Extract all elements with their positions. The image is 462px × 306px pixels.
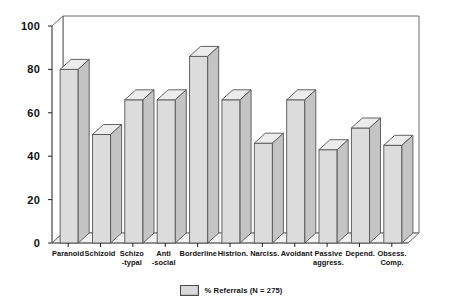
y-tick-label: 60 xyxy=(27,107,40,119)
bar-side xyxy=(272,133,283,243)
y-axis: 020406080100 xyxy=(14,0,40,306)
x-tick-label-line: -typal xyxy=(116,258,148,267)
x-tick-label: Depend. xyxy=(344,249,376,289)
bar-front xyxy=(60,69,78,243)
bar-group xyxy=(157,90,186,243)
x-tick-label: Anti-social xyxy=(148,249,180,289)
x-tick-label: Histrion. xyxy=(217,249,249,289)
bar-group xyxy=(287,90,316,243)
x-tick-label-line: Depend. xyxy=(344,249,376,258)
x-tick-label-line: Schizo xyxy=(116,249,148,258)
bar-side xyxy=(402,135,413,243)
bar-front xyxy=(287,100,305,243)
x-tick-label: Paranoid xyxy=(52,249,84,289)
bar-front xyxy=(93,135,111,244)
bar-front xyxy=(222,100,240,243)
bar-group xyxy=(222,90,251,243)
legend-label-referrals: % Referrals (N = 275) xyxy=(205,286,283,295)
bar-group xyxy=(254,133,283,243)
y-tick-label: 0 xyxy=(34,237,40,249)
bar-side xyxy=(305,90,316,243)
y-tick-label: 100 xyxy=(21,20,40,32)
bar-side xyxy=(175,90,186,243)
bar-side xyxy=(337,140,348,243)
bar-front xyxy=(254,143,272,243)
bar-front xyxy=(384,145,402,243)
x-tick-label: Narciss. xyxy=(249,249,281,289)
x-tick-label-line: Comp. xyxy=(376,258,408,267)
bar-group xyxy=(190,46,219,243)
bar-front xyxy=(351,128,369,243)
bar-side xyxy=(78,59,89,243)
x-tick-label-line: aggress. xyxy=(312,258,344,267)
x-axis: ParanoidSchizoidSchizo-typalAnti-socialB… xyxy=(52,249,408,289)
bar-side xyxy=(240,90,251,243)
x-tick-label: Avoidant xyxy=(281,249,313,289)
x-tick-label: Passiveaggress. xyxy=(312,249,344,289)
bar-group xyxy=(319,140,348,243)
bar-side xyxy=(208,46,219,243)
y-tick-label: 40 xyxy=(27,150,40,162)
x-tick-label-line: Anti xyxy=(148,249,180,258)
x-tick-label-line: Schizoid xyxy=(84,249,116,258)
bar-front xyxy=(125,100,143,243)
bar-side xyxy=(370,118,381,243)
bar-group xyxy=(93,125,122,244)
x-tick-label-line: Avoidant xyxy=(281,249,313,258)
bar-side xyxy=(143,90,154,243)
x-tick-label: Schizoid xyxy=(84,249,116,289)
bar-group xyxy=(384,135,413,243)
x-tick-label-line: -social xyxy=(148,258,180,267)
y-tick-label: 80 xyxy=(27,63,40,75)
x-tick-label: Borderline xyxy=(180,249,217,289)
x-tick-label: Schizo-typal xyxy=(116,249,148,289)
legend: % Referrals (N = 275) xyxy=(0,285,462,296)
y-tick-label: 20 xyxy=(27,194,40,206)
x-tick-label-line: Paranoid xyxy=(52,249,84,258)
x-tick-label-line: Obsess. xyxy=(376,249,408,258)
bar-side xyxy=(111,125,122,244)
x-tick-label-line: Narciss. xyxy=(249,249,281,258)
bar-group xyxy=(351,118,380,243)
x-tick-label-line: Borderline xyxy=(180,249,217,258)
legend-swatch-referrals xyxy=(180,285,199,296)
x-tick-label-line: Histrion. xyxy=(217,249,249,258)
bar-front xyxy=(319,150,337,243)
bar-group xyxy=(60,59,89,243)
bar-front xyxy=(190,56,208,243)
bar-chart: 020406080100 ParanoidSchizoidSchizo-typa… xyxy=(0,0,462,306)
x-tick-label-line: Passive xyxy=(312,249,344,258)
x-tick-label: Obsess.Comp. xyxy=(376,249,408,289)
bar-group xyxy=(125,90,154,243)
bar-front xyxy=(157,100,175,243)
